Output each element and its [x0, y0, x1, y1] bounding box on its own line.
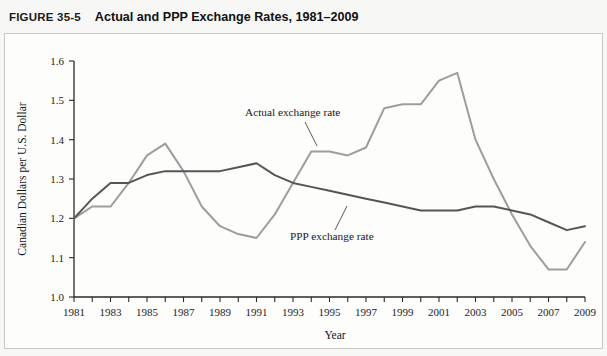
x-tick-label: 1983	[100, 306, 123, 318]
chart-panel: 1.01.11.21.31.41.51.6 198119831985198719…	[4, 33, 603, 349]
figure-title: Actual and PPP Exchange Rates, 1981–2009	[95, 10, 359, 24]
axis-lines	[74, 61, 585, 297]
x-tick-label: 1999	[392, 306, 415, 318]
y-axis-tick-labels: 1.01.11.21.31.41.51.6	[50, 55, 64, 303]
ppp-annotation-leader-line	[335, 206, 347, 230]
y-tick-label: 1.0	[50, 291, 64, 303]
y-axis-title: Canadian Dollars per U.S. Dollar	[16, 102, 29, 255]
y-tick-label: 1.6	[50, 55, 64, 67]
x-tick-label: 1997	[355, 306, 378, 318]
figure-container: FIGURE 35-5 Actual and PPP Exchange Rate…	[0, 0, 607, 356]
ticks-group	[69, 61, 585, 302]
y-tick-label: 1.5	[50, 94, 64, 106]
y-tick-label: 1.3	[50, 173, 64, 185]
line-chart: 1.01.11.21.31.41.51.6 198119831985198719…	[5, 34, 602, 348]
x-tick-label: 2005	[501, 306, 524, 318]
x-tick-label: 1985	[136, 306, 159, 318]
y-tick-label: 1.4	[50, 134, 64, 146]
x-tick-label: 2009	[574, 306, 597, 318]
x-tick-label: 2003	[465, 306, 488, 318]
x-tick-label: 2001	[428, 306, 450, 318]
y-tick-label: 1.1	[50, 252, 64, 264]
figure-header: FIGURE 35-5 Actual and PPP Exchange Rate…	[0, 0, 607, 34]
actual-exchange-rate-annotation: Actual exchange rate	[245, 106, 340, 118]
x-tick-label: 1993	[282, 306, 305, 318]
actual-annotation-leader-line	[305, 122, 317, 146]
x-tick-label: 1987	[173, 306, 196, 318]
x-axis-title: Year	[324, 329, 345, 341]
ppp-exchange-rate-annotation: PPP exchange rate	[290, 230, 374, 242]
series-line-ppp-exchange-rate	[74, 163, 585, 230]
x-axis-tick-labels: 1981198319851987198919911993199519971999…	[63, 306, 597, 318]
annotations-group: Actual exchange rate PPP exchange rate	[245, 106, 374, 242]
axes-group	[74, 61, 585, 297]
figure-number: FIGURE 35-5	[9, 11, 81, 23]
x-tick-label: 1981	[63, 306, 85, 318]
y-tick-label: 1.2	[50, 212, 64, 224]
x-tick-label: 1989	[209, 306, 232, 318]
x-tick-label: 1995	[319, 306, 342, 318]
x-tick-label: 1991	[246, 306, 268, 318]
x-tick-label: 2007	[538, 306, 561, 318]
